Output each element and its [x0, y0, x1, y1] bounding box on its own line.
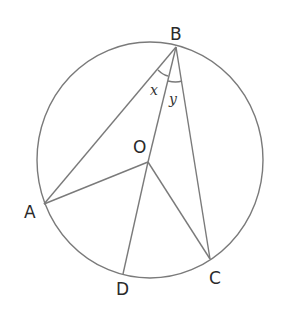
segment-oc [148, 162, 210, 259]
label-b: B [170, 24, 182, 44]
angle-x-arc [158, 70, 168, 76]
label-d: D [116, 279, 129, 299]
label-a: A [24, 202, 36, 222]
label-o: O [133, 137, 146, 157]
label-c: C [209, 268, 221, 288]
segment-od [123, 162, 148, 274]
segment-oa [44, 162, 148, 204]
circle-diagram: B A O D C x y [0, 0, 284, 310]
angle-y-arc [168, 81, 182, 82]
angle-x-label: x [150, 82, 158, 98]
segment-bc [176, 47, 210, 259]
angle-y-label: y [168, 91, 178, 107]
